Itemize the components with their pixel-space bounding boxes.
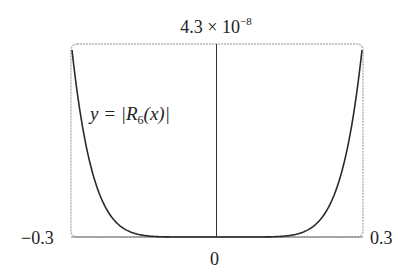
x-origin-label: 0 <box>210 250 219 268</box>
chart-plot <box>0 0 420 280</box>
x-max-label: 0.3 <box>370 229 393 247</box>
y-max-label: 4.3 × 10−8 <box>0 16 420 36</box>
x-min-label: −0.3 <box>21 229 54 247</box>
function-label: y = |R6(x)| <box>90 104 170 126</box>
